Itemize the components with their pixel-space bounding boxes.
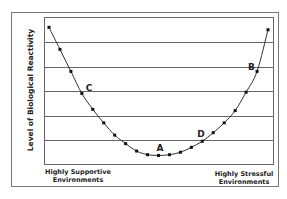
data-point-13 (190, 146, 193, 149)
data-point-2 (69, 70, 72, 73)
data-point-11 (168, 153, 171, 156)
annotation-c: C (86, 83, 93, 93)
data-point-8 (135, 150, 138, 153)
data-point-4 (91, 108, 94, 111)
annotation-b: B (248, 62, 255, 72)
outer-frame (12, 13, 279, 187)
x-axis-right-label-line2: Environments (219, 178, 270, 186)
data-point-9 (146, 153, 149, 156)
gridlines (45, 43, 274, 141)
data-point-10 (157, 154, 160, 157)
annotation-d: D (197, 129, 204, 139)
data-point-1 (58, 48, 61, 51)
annotation-a: A (157, 143, 164, 153)
data-point-0 (48, 26, 51, 29)
data-point-14 (201, 140, 204, 143)
x-axis-left-label-line1: Highly Supportive (45, 168, 112, 176)
y-axis-label: Level of Biological Reactivity (26, 29, 35, 151)
x-axis-left-label-line2: Environments (53, 176, 104, 184)
data-point-19 (256, 70, 259, 73)
data-point-3 (80, 92, 83, 95)
data-point-16 (223, 121, 226, 124)
data-point-5 (102, 121, 105, 124)
data-point-7 (124, 142, 127, 145)
x-axis-right-label-line1: Highly Stressful (215, 170, 274, 178)
data-point-17 (234, 109, 237, 112)
data-point-12 (179, 151, 182, 154)
chart: CADB Level of Biological Reactivity High… (0, 0, 287, 199)
data-point-15 (212, 131, 215, 134)
data-point-20 (267, 28, 270, 31)
data-point-18 (245, 91, 248, 94)
data-point-6 (113, 134, 116, 137)
annotations: CADB (86, 62, 255, 153)
